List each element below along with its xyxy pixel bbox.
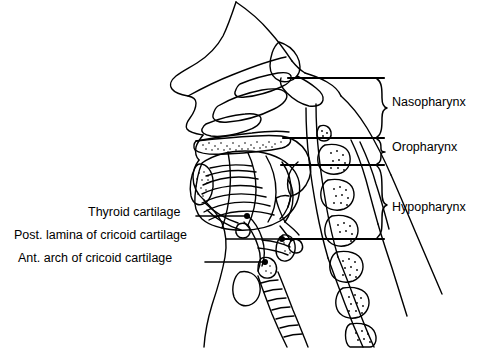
- label-hypopharynx: Hypopharynx: [392, 201, 466, 214]
- label-nasopharynx: Nasopharynx: [392, 96, 466, 109]
- trachea: [258, 272, 308, 347]
- thyroid-gland: [233, 271, 260, 305]
- posterior-pharyngeal-wall: [306, 104, 374, 347]
- label-post-lamina-cricoid-cartilage: Post. lamina of cricoid cartilage: [14, 229, 187, 242]
- head-outline: [171, 2, 236, 347]
- ant-arch-cricoid-dot: [262, 259, 268, 265]
- right-leader-lines: [281, 78, 384, 239]
- post-lamina-cricoid-dot: [279, 236, 285, 242]
- skull-base-outline: [236, 2, 341, 106]
- nasal-cavity: [188, 57, 291, 141]
- anatomy-figure: Nasopharynx Oropharynx Hypopharynx Thyro…: [0, 0, 495, 348]
- label-ant-arch-cricoid-cartilage: Ant. arch of cricoid cartilage: [18, 252, 172, 265]
- label-thyroid-cartilage: Thyroid cartilage: [88, 206, 180, 219]
- epiglottis-larynx: [258, 180, 303, 255]
- thyroid-cartilage-dot: [244, 213, 250, 219]
- nasopharynx-brace: [377, 79, 387, 137]
- anatomy-illustration: [0, 0, 495, 348]
- hard-palate-stipple: [202, 141, 282, 151]
- label-oropharynx: Oropharynx: [392, 141, 457, 154]
- vertebrae-stipple: [321, 130, 371, 343]
